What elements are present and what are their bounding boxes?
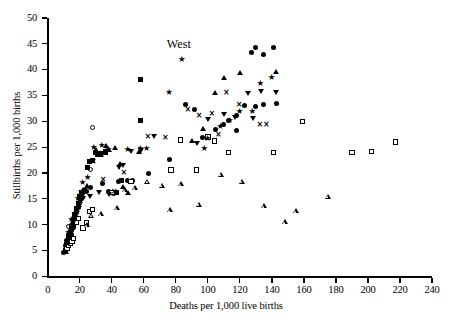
data-point-cross: × bbox=[144, 134, 152, 142]
data-point-open-tri-up bbox=[84, 222, 90, 227]
y-tick-label: 25 bbox=[19, 142, 37, 153]
x-tick-label: 240 bbox=[417, 285, 447, 296]
data-point-filled-tri-down bbox=[194, 141, 200, 146]
x-tick-mark bbox=[271, 278, 272, 283]
x-tick-label: 180 bbox=[321, 285, 351, 296]
data-point-star: ★ bbox=[268, 75, 276, 83]
data-point-open-square bbox=[271, 150, 276, 155]
y-tick-label: 45 bbox=[19, 39, 37, 50]
data-point-cross: × bbox=[120, 170, 128, 178]
data-point-star: ★ bbox=[90, 145, 98, 153]
data-point-open-tri-up bbox=[196, 202, 202, 207]
y-tick-mark bbox=[42, 250, 48, 251]
x-tick-label: 0 bbox=[33, 285, 63, 296]
data-point-star: ★ bbox=[200, 146, 208, 154]
x-tick-mark bbox=[111, 278, 112, 283]
data-point-filled-tri-up bbox=[63, 249, 69, 254]
data-point-filled-tri-up bbox=[212, 90, 218, 95]
data-point-star: ★ bbox=[84, 175, 92, 183]
y-tick-mark bbox=[42, 147, 48, 148]
data-point-filled-circle bbox=[274, 101, 279, 106]
x-tick-label: 160 bbox=[289, 285, 319, 296]
data-point-filled-tri-down bbox=[96, 190, 102, 195]
y-axis-title: Stillbirths per 1,000 births bbox=[11, 36, 22, 256]
x-tick-label: 140 bbox=[257, 285, 287, 296]
data-point-open-square bbox=[128, 179, 133, 184]
x-tick-label: 220 bbox=[385, 285, 415, 296]
data-points-layer: ★★★★★★★★★★★★★★★★★★★★★★×××××××××××××××××× bbox=[0, 0, 452, 85]
y-tick-label: 5 bbox=[19, 245, 37, 256]
x-tick-mark bbox=[143, 278, 144, 283]
data-point-filled-tri-up bbox=[64, 240, 70, 245]
y-tick-label: 50 bbox=[19, 13, 37, 24]
y-tick-label: 35 bbox=[19, 90, 37, 101]
y-tick-mark bbox=[42, 198, 48, 199]
x-tick-label: 80 bbox=[161, 285, 191, 296]
y-tick-mark bbox=[42, 95, 48, 96]
x-tick-mark bbox=[79, 278, 80, 283]
data-point-cross: × bbox=[184, 107, 192, 115]
x-tick-label: 20 bbox=[65, 285, 95, 296]
y-tick-mark bbox=[42, 276, 48, 277]
data-point-cross: × bbox=[111, 189, 119, 197]
data-point-star: ★ bbox=[257, 81, 265, 89]
x-tick-mark bbox=[303, 278, 304, 283]
x-tick-mark bbox=[431, 278, 432, 283]
data-point-filled-tri-up bbox=[237, 70, 243, 75]
data-point-open-tri-up bbox=[239, 179, 245, 184]
data-point-open-tri-up bbox=[122, 187, 128, 192]
x-tick-mark bbox=[335, 278, 336, 283]
data-point-filled-tri-down bbox=[245, 91, 251, 96]
data-point-cross: × bbox=[263, 122, 271, 130]
data-point-open-tri-up bbox=[218, 172, 224, 177]
data-point-cross: × bbox=[215, 132, 223, 140]
y-tick-label: 40 bbox=[19, 64, 37, 75]
data-point-cross: × bbox=[100, 177, 108, 185]
data-point-open-square bbox=[178, 137, 183, 142]
data-point-filled-circle bbox=[146, 171, 151, 176]
data-point-open-square bbox=[194, 167, 199, 172]
data-point-filled-tri-down bbox=[258, 89, 264, 94]
x-tick-mark bbox=[207, 278, 208, 283]
data-point-open-square bbox=[168, 167, 173, 172]
data-point-cross: × bbox=[223, 90, 231, 98]
y-tick-mark bbox=[42, 224, 48, 225]
data-point-open-square bbox=[226, 150, 231, 155]
data-point-open-tri-up bbox=[261, 203, 267, 208]
x-tick-mark bbox=[367, 278, 368, 283]
data-point-star: ★ bbox=[124, 147, 132, 155]
data-point-star: ★ bbox=[143, 146, 151, 154]
data-point-filled-square bbox=[138, 77, 143, 82]
x-tick-mark bbox=[239, 278, 240, 283]
data-point-filled-tri-up bbox=[200, 126, 206, 131]
y-tick-label: 30 bbox=[19, 116, 37, 127]
data-point-open-tri-up bbox=[88, 213, 94, 218]
data-point-open-square bbox=[90, 207, 95, 212]
data-point-cross: × bbox=[162, 135, 170, 143]
data-point-open-tri-up bbox=[167, 207, 173, 212]
data-point-cross: × bbox=[82, 188, 90, 196]
data-point-open-tri-up bbox=[98, 211, 104, 216]
data-point-open-square bbox=[349, 150, 354, 155]
data-point-star: ★ bbox=[165, 90, 173, 98]
data-point-open-square bbox=[393, 139, 398, 144]
data-point-filled-square bbox=[119, 178, 124, 183]
y-tick-mark bbox=[42, 17, 48, 18]
y-tick-label: 10 bbox=[19, 220, 37, 231]
data-point-filled-tri-up bbox=[221, 75, 227, 80]
data-point-filled-circle bbox=[271, 45, 276, 50]
y-tick-mark bbox=[42, 172, 48, 173]
data-point-star: ★ bbox=[249, 109, 257, 117]
data-point-open-tri-up bbox=[293, 208, 299, 213]
data-point-open-tri-up bbox=[325, 194, 331, 199]
y-tick-mark bbox=[42, 121, 48, 122]
data-point-open-tri-up bbox=[282, 219, 288, 224]
data-point-cross: × bbox=[208, 111, 216, 119]
y-tick-mark bbox=[42, 69, 48, 70]
data-point-cross: × bbox=[236, 102, 244, 110]
scatter-chart: 05101520253035404550 0204060801001201401… bbox=[0, 0, 452, 326]
y-tick-label: 0 bbox=[19, 271, 37, 282]
data-point-filled-circle bbox=[261, 52, 266, 57]
x-tick-label: 100 bbox=[193, 285, 223, 296]
y-tick-label: 15 bbox=[19, 194, 37, 205]
